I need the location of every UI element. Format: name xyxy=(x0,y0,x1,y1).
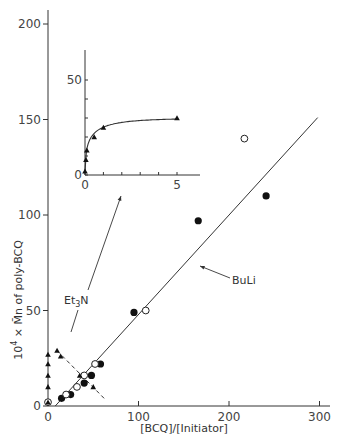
x-tick-label: 300 xyxy=(308,410,331,424)
triangle-marker xyxy=(45,384,51,389)
buli-arrow-head xyxy=(200,266,205,270)
open-circle-marker xyxy=(241,135,248,142)
et3n-inset-arrow-head xyxy=(118,196,122,201)
inset-y-tick-label: 0 xyxy=(74,168,82,182)
y-tick-label: 150 xyxy=(18,113,41,127)
triangle-marker xyxy=(174,115,180,120)
buli-arrow xyxy=(200,266,230,278)
filled-circle-marker xyxy=(81,379,88,386)
et3n-arrow-down xyxy=(71,310,78,332)
et3n-inset-arrow xyxy=(88,196,121,290)
inset-curve xyxy=(85,119,177,171)
triangle-marker xyxy=(83,157,89,162)
triangle-marker xyxy=(101,125,107,130)
y-tick-label: 50 xyxy=(26,304,41,318)
y-axis-title: 104 × M̄n of poly-BCQ xyxy=(10,240,25,360)
inset-x-tick-label: 0 xyxy=(81,178,89,192)
inset-y-tick-label: 50 xyxy=(67,73,82,87)
inset-plot-area xyxy=(82,115,180,173)
inset-x-tick-label: 5 xyxy=(173,178,181,192)
x-tick-label: 0 xyxy=(44,410,52,424)
triangle-marker xyxy=(82,168,88,173)
y-axis-title-base: 10 xyxy=(12,346,25,360)
filled-circle-marker xyxy=(130,309,137,316)
main-axes: 0100200300050100150200 xyxy=(18,10,331,424)
open-circle-marker xyxy=(63,391,70,398)
filled-circle-marker xyxy=(263,192,270,199)
y-tick-label: 0 xyxy=(33,399,41,413)
triangle-marker xyxy=(90,384,96,389)
triangle-marker xyxy=(45,361,51,366)
filled-circle-marker xyxy=(88,372,95,379)
y-tick-label: 200 xyxy=(18,17,41,31)
et3n-label: Et3N xyxy=(64,294,89,309)
triangle-marker xyxy=(45,373,51,378)
y-axis-title-rest: × M̄n of poly-BCQ xyxy=(12,240,25,341)
triangle-marker xyxy=(54,348,60,353)
open-circle-marker xyxy=(74,384,81,391)
open-circle-marker xyxy=(142,307,149,314)
y-tick-label: 100 xyxy=(18,208,41,222)
triangle-marker xyxy=(45,352,51,357)
open-circle-marker xyxy=(81,372,88,379)
chart: 0100200300050100150200 05050 [BCQ]/[Init… xyxy=(0,0,340,440)
buli-label: BuLi xyxy=(232,274,256,287)
open-circle-marker xyxy=(92,361,99,368)
x-axis-title: [BCQ]/[Initiator] xyxy=(140,422,228,435)
filled-circle-marker xyxy=(195,217,202,224)
